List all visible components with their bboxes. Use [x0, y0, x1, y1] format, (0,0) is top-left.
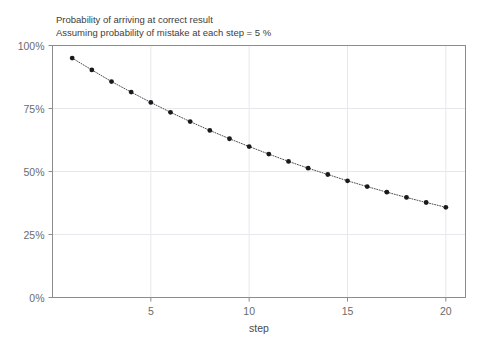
y-axis-tick-labels: 0%25%50%75%100%	[18, 40, 45, 304]
x-axis-title: step	[249, 322, 269, 334]
x-tick-label: 15	[342, 305, 354, 317]
y-tick-label: 0%	[29, 292, 44, 304]
data-point	[207, 128, 212, 133]
y-tick-label: 75%	[23, 103, 44, 115]
data-point	[286, 159, 291, 164]
data-point	[109, 79, 114, 84]
y-tick-label: 50%	[23, 166, 44, 178]
y-tick-label: 25%	[23, 229, 44, 241]
data-point	[148, 100, 153, 105]
chart-plot: 0%25%50%75%100% 5101520 step	[0, 0, 491, 346]
data-point	[227, 136, 232, 141]
data-point	[70, 56, 75, 61]
data-point	[345, 178, 350, 183]
data-point	[266, 152, 271, 157]
x-tick-label: 20	[440, 305, 452, 317]
data-point	[404, 195, 409, 200]
data-series-line	[72, 58, 446, 207]
data-point	[129, 90, 134, 95]
data-point	[188, 119, 193, 124]
x-axis-tick-labels: 5101520	[148, 305, 452, 317]
x-axis-title-text: step	[249, 322, 269, 334]
data-point	[424, 200, 429, 205]
data-point	[443, 205, 448, 210]
chart-container: Probability of arriving at correct resul…	[0, 0, 491, 346]
data-point	[306, 166, 311, 171]
tick-marks	[49, 46, 446, 302]
x-tick-label: 10	[243, 305, 255, 317]
data-point	[325, 172, 330, 177]
series-polyline	[72, 58, 446, 207]
data-point	[365, 184, 370, 189]
data-point	[384, 190, 389, 195]
x-tick-label: 5	[148, 305, 154, 317]
data-point	[247, 144, 252, 149]
data-series-points	[70, 56, 448, 210]
data-point	[168, 110, 173, 115]
y-tick-label: 100%	[18, 40, 45, 52]
data-point	[89, 68, 94, 73]
